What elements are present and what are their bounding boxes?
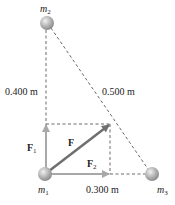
dashed-line-m2-m3 bbox=[51, 28, 148, 169]
label-force-f1: F1 bbox=[27, 142, 37, 155]
label-m3: m3 bbox=[157, 184, 168, 197]
label-m1: m1 bbox=[38, 184, 49, 197]
gravity-force-diagram: m2 m1 m3 0.400 m 0.500 m 0.300 m F1 F F2 bbox=[0, 0, 175, 205]
distance-m1-m3: 0.300 m bbox=[86, 184, 119, 195]
distance-m2-m3: 0.500 m bbox=[102, 86, 135, 97]
mass-m2-sphere bbox=[40, 16, 54, 30]
label-force-f2: F2 bbox=[87, 158, 97, 171]
mass-m3-sphere bbox=[145, 167, 159, 181]
force-f-arrow bbox=[49, 125, 109, 171]
label-m2: m2 bbox=[40, 3, 51, 16]
mass-m1-sphere bbox=[38, 167, 52, 181]
distance-m1-m2: 0.400 m bbox=[5, 86, 38, 97]
label-force-f: F bbox=[68, 137, 74, 148]
